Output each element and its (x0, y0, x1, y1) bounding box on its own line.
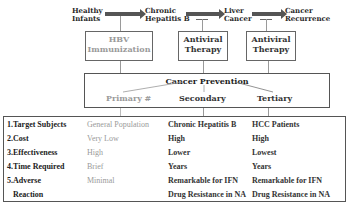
stage-label: Cancer (224, 15, 252, 23)
connector-line (266, 19, 267, 31)
table-row: 4.Time Required Brief Years Years (4, 160, 345, 173)
intervention-label: Immunization (86, 44, 152, 54)
stage-label: Infants (72, 15, 103, 23)
flow-arrow-1 (105, 12, 141, 16)
table-row: 1.Target Subjects General Population Chr… (4, 118, 345, 131)
comparison-table: 1.Target Subjects General Population Chr… (3, 116, 346, 202)
table-row: 5.Adverse Minimal Remarkable for IFN Rem… (4, 174, 345, 187)
cell-primary: Minimal (87, 174, 115, 187)
connector-line (120, 108, 121, 116)
connector-line (268, 61, 269, 73)
cell-tertiary: Years (252, 160, 271, 173)
stage-cancer-recurrence: Cancer Recurrence (285, 7, 330, 23)
cell-secondary: High (168, 132, 185, 145)
intervention-antiviral-therapy-2: Antiviral Therapy (246, 31, 296, 61)
cancer-prevention-box: Cancer Prevention Primary # Secondary Te… (84, 73, 330, 108)
connector-line (202, 19, 203, 31)
cell-secondary: Remarkable for IFN (168, 174, 238, 187)
row-label: 2.Cost (7, 132, 29, 145)
row-label: 1.Target Subjects (7, 118, 66, 131)
cell-secondary: Years (168, 160, 187, 173)
connector-line (120, 61, 121, 73)
stage-liver-cancer: Liver Cancer (224, 7, 252, 23)
cell-tertiary: Lowest (252, 146, 276, 159)
row-label: 4.Time Required (7, 160, 64, 173)
intervention-label: Antiviral (247, 34, 295, 44)
connector-line (203, 108, 204, 116)
cell-tertiary: HCC Patients (252, 118, 299, 131)
cell-tertiary: Remarkable for IFN (252, 174, 322, 187)
flow-arrow-3 (252, 12, 282, 16)
stage-label: Recurrence (285, 15, 330, 23)
cell-secondary: Lower (168, 146, 190, 159)
cell-primary: High (87, 146, 103, 159)
table-row: Reaction Drug Resistance in NA Drug Resi… (4, 188, 345, 201)
prevention-primary: Primary # (106, 93, 151, 103)
connector-line (268, 108, 269, 116)
intervention-hbv-immunization: HBV Immunization (85, 31, 153, 61)
connector-line (120, 16, 121, 32)
flow-arrow-2 (186, 12, 220, 16)
intervention-label: HBV (86, 34, 152, 44)
table-row: 2.Cost Very Low High High (4, 132, 345, 145)
connector-line (203, 61, 204, 73)
intervention-label: Antiviral (179, 34, 227, 44)
cell-primary: Very Low (87, 132, 119, 145)
cell-tertiary: Drug Resistance in NA (252, 188, 330, 201)
stage-label: Hepatitis B (145, 15, 190, 23)
stage-chronic-hepatitis-b: Chronic Hepatitis B (145, 7, 190, 23)
cell-primary: General Population (87, 118, 149, 131)
stage-healthy-infants: Healthy Infants (72, 7, 103, 23)
row-label: 5.Adverse (7, 174, 41, 187)
prevention-tertiary: Tertiary (257, 93, 292, 103)
branch-arrows (85, 74, 331, 109)
cell-secondary: Drug Resistance in NA (168, 188, 246, 201)
cell-primary: Brief (87, 160, 103, 173)
row-label: Reaction (13, 188, 43, 201)
cell-tertiary: High (252, 132, 269, 145)
prevention-secondary: Secondary (179, 93, 226, 103)
cell-secondary: Chronic Hepatitis B (168, 118, 236, 131)
intervention-antiviral-therapy-1: Antiviral Therapy (178, 31, 228, 61)
intervention-label: Therapy (247, 44, 295, 54)
table-row: 3.Effectiveness High Lower Lowest (4, 146, 345, 159)
row-label: 3.Effectiveness (7, 146, 57, 159)
intervention-label: Therapy (179, 44, 227, 54)
